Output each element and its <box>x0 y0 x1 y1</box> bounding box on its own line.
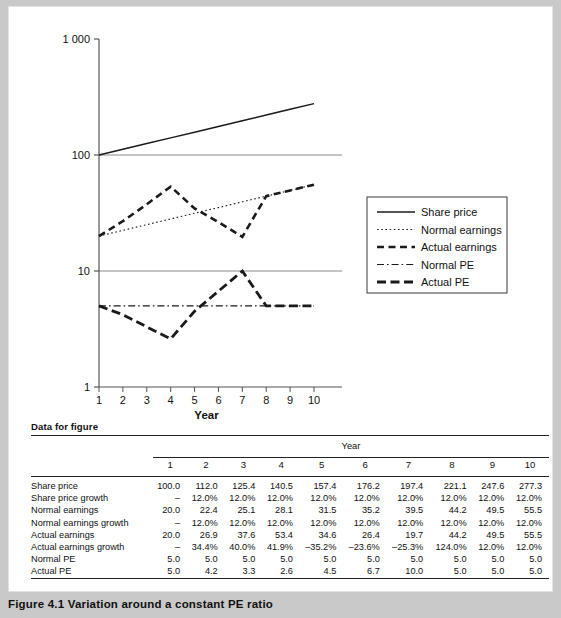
cell-r4-c0: 20.0 <box>153 529 187 541</box>
cell-r5-c3: 41.9% <box>262 541 300 553</box>
cell-r3-c9: 12.0% <box>511 517 549 529</box>
cell-r0-c5: 176.2 <box>343 480 386 492</box>
row-label-1: Share price growth <box>31 492 153 504</box>
row-label-0: Share price <box>31 480 153 492</box>
row-label-5: Actual earnings growth <box>31 541 153 553</box>
table-group-header-row: Year <box>31 440 549 453</box>
cell-r1-c0: – <box>153 492 187 504</box>
row-label-7: Actual PE <box>31 565 153 578</box>
cell-r1-c4: 12.0% <box>300 492 343 504</box>
series-line-4 <box>99 271 314 339</box>
cell-r7-c4: 4.5 <box>300 565 343 578</box>
cell-r7-c5: 6.7 <box>343 565 386 578</box>
cell-r0-c3: 140.5 <box>262 480 300 492</box>
cell-r6-c1: 5.0 <box>187 553 225 565</box>
cell-r3-c1: 12.0% <box>187 517 225 529</box>
cell-r4-c8: 49.5 <box>474 529 512 541</box>
cell-r5-c6: –25.3% <box>387 541 430 553</box>
column-header-6: 6 <box>343 458 386 473</box>
series-line-1 <box>99 185 314 236</box>
cell-r6-c3: 5.0 <box>262 553 300 565</box>
cell-r4-c6: 19.7 <box>387 529 430 541</box>
cell-r6-c0: 5.0 <box>153 553 187 565</box>
cell-r7-c8: 5.0 <box>474 565 512 578</box>
cell-r2-c3: 28.1 <box>262 504 300 516</box>
cell-r4-c3: 53.4 <box>262 529 300 541</box>
cell-r0-c4: 157.4 <box>300 480 343 492</box>
legend-label-4: Actual PE <box>421 276 469 288</box>
series-line-0 <box>99 104 314 155</box>
cell-r5-c5: –23.6% <box>343 541 386 553</box>
cell-r1-c3: 12.0% <box>262 492 300 504</box>
cell-r1-c5: 12.0% <box>343 492 386 504</box>
cell-r5-c0: – <box>153 541 187 553</box>
cell-r3-c0: – <box>153 517 187 529</box>
cell-r4-c2: 37.6 <box>225 529 263 541</box>
cell-r1-c1: 12.0% <box>187 492 225 504</box>
chart-svg: 1101001 00012345678910YearShare priceNor… <box>19 15 544 420</box>
column-header-10: 10 <box>511 458 549 473</box>
y-tick-label-1: 1 <box>84 381 90 393</box>
table-row: Normal earnings20.022.425.128.131.535.23… <box>31 504 549 516</box>
cell-r0-c8: 247.6 <box>474 480 512 492</box>
rule-spacer <box>31 578 549 582</box>
cell-r6-c2: 5.0 <box>225 553 263 565</box>
cell-r3-c3: 12.0% <box>262 517 300 529</box>
x-axis-title: Year <box>194 409 219 420</box>
cell-r3-c5: 12.0% <box>343 517 386 529</box>
cell-r2-c4: 31.5 <box>300 504 343 516</box>
cell-r6-c8: 5.0 <box>474 553 512 565</box>
cell-r0-c9: 277.3 <box>511 480 549 492</box>
group-header-year: Year <box>153 440 549 453</box>
column-header-2: 2 <box>187 458 225 473</box>
x-tick-label-8: 8 <box>263 394 269 406</box>
cell-r5-c7: 124.0% <box>430 541 473 553</box>
y-tick-label-100: 100 <box>72 149 90 161</box>
cell-r7-c6: 10.0 <box>387 565 430 578</box>
x-tick-label-3: 3 <box>144 394 150 406</box>
column-header-1: 1 <box>153 458 187 473</box>
cell-r2-c8: 49.5 <box>474 504 512 516</box>
column-header-3: 3 <box>225 458 263 473</box>
column-header-8: 8 <box>430 458 473 473</box>
cell-r3-c6: 12.0% <box>387 517 430 529</box>
cell-r3-c4: 12.0% <box>300 517 343 529</box>
cell-r2-c5: 35.2 <box>343 504 386 516</box>
y-tick-label-10: 10 <box>78 265 90 277</box>
cell-r1-c6: 12.0% <box>387 492 430 504</box>
cell-r6-c4: 5.0 <box>300 553 343 565</box>
data-for-figure-heading: Data for figure <box>31 421 549 432</box>
x-tick-label-10: 10 <box>308 394 320 406</box>
cell-r0-c2: 125.4 <box>225 480 263 492</box>
cell-r7-c0: 5.0 <box>153 565 187 578</box>
table-row: Share price growth–12.0%12.0%12.0%12.0%1… <box>31 492 549 504</box>
column-header-4: 4 <box>262 458 300 473</box>
legend-label-1: Normal earnings <box>421 224 502 236</box>
table-column-header-row: 12345678910 <box>31 458 549 473</box>
cell-r2-c6: 39.5 <box>387 504 430 516</box>
cell-r2-c0: 20.0 <box>153 504 187 516</box>
cell-r0-c0: 100.0 <box>153 480 187 492</box>
figure-caption: Figure 4.1 Variation around a constant P… <box>8 598 273 610</box>
cell-r7-c9: 5.0 <box>511 565 549 578</box>
cell-r6-c6: 5.0 <box>387 553 430 565</box>
row-label-3: Normal earnings growth <box>31 517 153 529</box>
cell-r0-c6: 197.4 <box>387 480 430 492</box>
group-header-blank <box>31 440 153 453</box>
cell-r3-c8: 12.0% <box>474 517 512 529</box>
cell-r6-c7: 5.0 <box>430 553 473 565</box>
row-label-6: Normal PE <box>31 553 153 565</box>
column-header-7: 7 <box>387 458 430 473</box>
chart-container: 1101001 00012345678910YearShare priceNor… <box>19 15 544 420</box>
table-row: Normal earnings growth–12.0%12.0%12.0%12… <box>31 517 549 529</box>
x-tick-label-9: 9 <box>287 394 293 406</box>
column-header-9: 9 <box>474 458 512 473</box>
cell-r5-c1: 34.4% <box>187 541 225 553</box>
cell-r5-c2: 40.0% <box>225 541 263 553</box>
cell-r4-c9: 55.5 <box>511 529 549 541</box>
legend-label-3: Normal PE <box>421 259 474 271</box>
cell-r7-c1: 4.2 <box>187 565 225 578</box>
column-header-blank <box>31 458 153 473</box>
row-label-2: Normal earnings <box>31 504 153 516</box>
cell-r2-c1: 22.4 <box>187 504 225 516</box>
